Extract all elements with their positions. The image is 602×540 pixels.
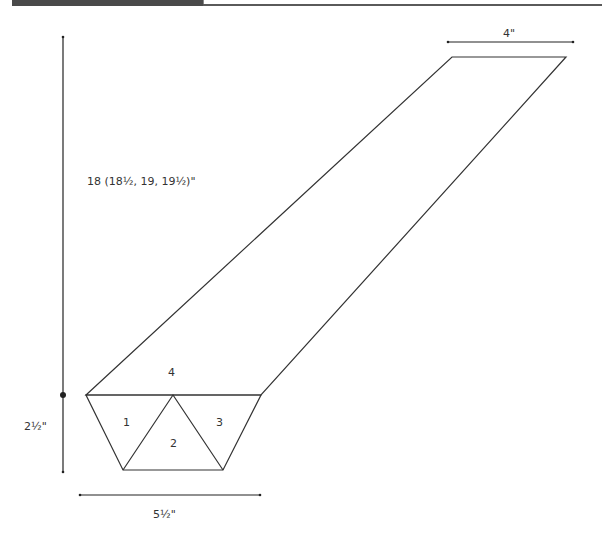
length-dim-end-top — [62, 36, 65, 39]
section-marker-dot — [60, 392, 66, 398]
bottom-dim-end-right — [259, 494, 262, 497]
pattern-diagram — [0, 0, 602, 540]
length-label: 18 (18½, 19, 19½)" — [87, 175, 195, 188]
section-height-label: 2½" — [24, 420, 47, 433]
piece-4-strip — [86, 57, 566, 395]
bottom-width-label: 5½" — [153, 508, 176, 521]
piece-1-label: 1 — [123, 416, 130, 429]
piece-2-label: 2 — [170, 437, 177, 450]
piece-4-label: 4 — [168, 366, 175, 379]
length-dim-end-bottom — [62, 471, 65, 474]
top-width-label: 4" — [503, 27, 515, 40]
bottom-trapezoid — [86, 395, 261, 470]
piece-2-triangle — [123, 395, 223, 470]
top-dim-end-left — [447, 41, 450, 44]
piece-3-label: 3 — [216, 416, 223, 429]
top-dim-end-right — [572, 41, 575, 44]
bottom-dim-end-left — [79, 494, 82, 497]
